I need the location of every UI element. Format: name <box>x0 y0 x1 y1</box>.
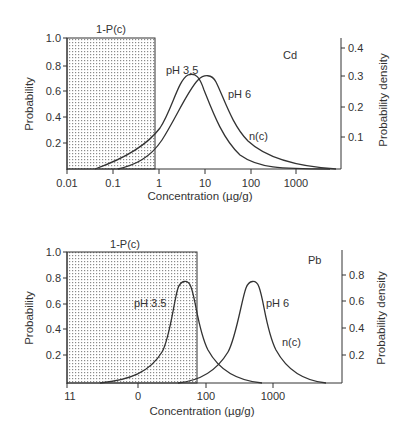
bottom-x-ticks <box>67 383 273 388</box>
bottom-element-pb: Pb <box>308 254 321 266</box>
bottom-ytick-0.8: 0.8 <box>46 272 61 284</box>
bottom-shaded-label: 1-P(c) <box>110 238 140 250</box>
bottom-xtick-0: 0 <box>135 390 141 402</box>
bottom-right-ticks <box>342 275 346 355</box>
bottom-xlabel: Concentration (µg/g) <box>149 405 254 417</box>
top-element-cd: Cd <box>283 49 297 61</box>
bottom-ytick-1.0: 1.0 <box>46 246 61 258</box>
bottom-ylabel-right: Probability density <box>375 271 387 365</box>
top-ytick-1.0: 1.0 <box>46 32 61 44</box>
bottom-shaded-region <box>67 252 197 383</box>
top-xtick-1000: 1000 <box>284 177 308 189</box>
top-ytick-0.8: 0.8 <box>46 60 61 72</box>
bottom-label-ph6: pH 6 <box>266 297 289 309</box>
top-panel-cd: 1-P(c) 1.0 0.8 0.6 0.4 0.2 Probability 0… <box>23 23 389 202</box>
bottom-curve-ph6 <box>178 281 326 383</box>
top-x-ticks <box>67 169 296 174</box>
top-xlabel: Concentration (µg/g) <box>147 190 252 202</box>
top-shaded-label: 1-P(c) <box>96 23 126 35</box>
bottom-ytick-0.4: 0.4 <box>46 323 61 335</box>
top-ylabel-right: Probability density <box>377 53 389 147</box>
bottom-xtick-1000: 1000 <box>261 390 285 402</box>
bottom-rtick-0.4: 0.4 <box>349 322 364 334</box>
bottom-rtick-0.6: 0.6 <box>349 295 364 307</box>
bottom-xtick-100: 100 <box>197 390 215 402</box>
bottom-xtick-11: 11 <box>64 390 75 402</box>
figure: 1-P(c) 1.0 0.8 0.6 0.4 0.2 Probability 0… <box>0 0 403 430</box>
top-xtick-10: 10 <box>199 177 211 189</box>
bottom-label-nc: n(c) <box>282 336 301 348</box>
top-xtick-0.01: 0.01 <box>56 177 77 189</box>
top-ytick-0.4: 0.4 <box>46 111 61 123</box>
bottom-rtick-0.8: 0.8 <box>349 269 364 281</box>
top-ytick-0.2: 0.2 <box>46 137 61 149</box>
top-xtick-100: 100 <box>242 177 260 189</box>
bottom-label-ph35: pH 3.5 <box>134 297 166 309</box>
top-right-ticks <box>341 48 345 137</box>
top-rtick-0.3: 0.3 <box>348 70 363 82</box>
top-rtick-0.4: 0.4 <box>348 42 363 54</box>
top-xtick-1: 1 <box>156 177 162 189</box>
top-rtick-0.2: 0.2 <box>348 101 363 113</box>
top-label-nc: n(c) <box>249 130 268 142</box>
top-left-ticks <box>63 38 67 143</box>
top-shaded-region <box>67 38 155 169</box>
top-label-ph35: pH 3.5 <box>166 64 198 76</box>
top-ytick-0.6: 0.6 <box>46 85 61 97</box>
top-ylabel-left: Probability <box>23 77 35 131</box>
bottom-ytick-0.6: 0.6 <box>46 298 61 310</box>
top-label-ph6: pH 6 <box>228 88 251 100</box>
top-xtick-0.1: 0.1 <box>105 177 120 189</box>
bottom-rtick-0.2: 0.2 <box>349 349 364 361</box>
bottom-left-ticks <box>63 252 67 355</box>
bottom-ytick-0.2: 0.2 <box>46 349 61 361</box>
top-rtick-0.1: 0.1 <box>348 131 363 143</box>
bottom-ylabel-left: Probability <box>23 291 35 345</box>
bottom-panel-pb: 1-P(c) 1.0 0.8 0.6 0.4 0.2 Probability 1… <box>23 238 387 417</box>
